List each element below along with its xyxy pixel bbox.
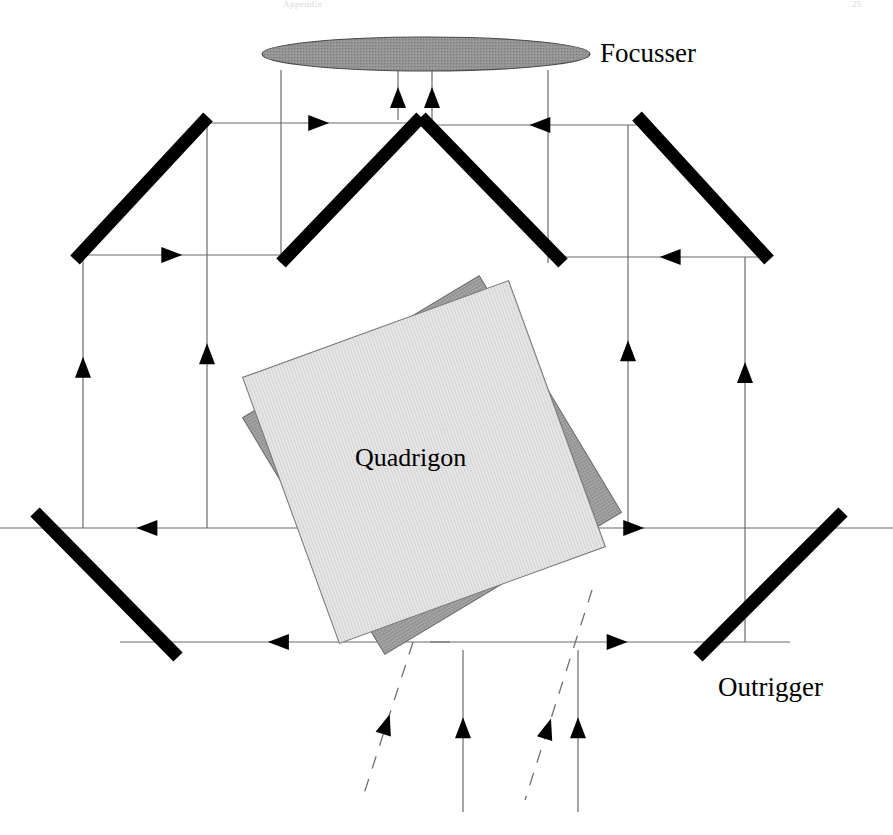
vray-focus-r-in-arrow <box>424 87 440 108</box>
quadrigon-label: Quadrigon <box>355 443 466 473</box>
ray-low-right-arrow <box>607 634 628 650</box>
outrigger-label: Outrigger <box>718 672 823 703</box>
mirror-upper-right <box>637 116 769 260</box>
ray-top-right-arrow <box>529 117 550 133</box>
dray-right-arrow <box>537 719 552 741</box>
diagram-canvas: Appendix 25 Focusser Outrigger Quadrigon <box>0 0 893 835</box>
page-header-left: Appendix <box>283 0 323 9</box>
vray-bottom-solid-right-arrow <box>570 717 586 738</box>
vray-inner-right-arrow <box>620 340 636 361</box>
ray-top-left-arrow <box>308 115 329 131</box>
mirror-roof-right <box>421 117 563 263</box>
ray-low-left-arrow <box>268 634 289 650</box>
ray-mid-left-arrow <box>136 520 157 536</box>
focusser-element <box>262 37 590 71</box>
page-header-right: 25 <box>852 0 861 9</box>
vray-focus-l-in-arrow <box>390 87 406 108</box>
ray-upper-right-lo-arrow <box>660 249 681 265</box>
mirror-upper-left <box>75 117 208 260</box>
vray-inner-left-arrow <box>199 343 215 364</box>
dray-right <box>525 590 592 800</box>
vray-far-left-arrow <box>75 357 91 378</box>
mirror-roof-left <box>281 117 421 263</box>
focusser-label: Focusser <box>600 38 696 69</box>
mirror-lower-right <box>698 512 843 657</box>
vray-far-right-arrow <box>737 362 753 383</box>
vray-bottom-solid-left-arrow <box>455 717 471 738</box>
dray-left-arrow <box>376 714 391 736</box>
ray-upper-left-lo-arrow <box>161 247 182 263</box>
ray-mid-right-arrow <box>623 520 644 536</box>
optical-ray-diagram <box>0 0 893 835</box>
